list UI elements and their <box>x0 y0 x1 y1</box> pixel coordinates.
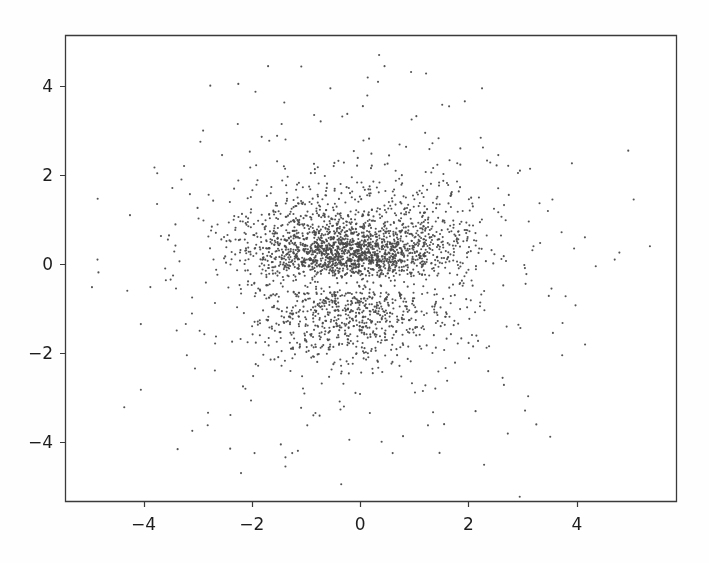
y-tick-label: 4 <box>42 78 53 95</box>
y-tick-label: −2 <box>28 345 53 362</box>
y-tick-label: 0 <box>42 256 53 273</box>
y-tick-label: 2 <box>42 167 53 184</box>
x-tick-label: 4 <box>571 516 582 533</box>
y-tick-label: −4 <box>28 433 53 450</box>
x-tick-label: 2 <box>463 516 474 533</box>
x-tick-label: −4 <box>131 516 156 533</box>
scatter-plot-canvas <box>0 0 709 563</box>
figure-container: −4 −2 0 2 4 −4 −2 0 2 4 <box>0 0 709 563</box>
x-tick-label: 0 <box>355 516 366 533</box>
x-tick-label: −2 <box>239 516 264 533</box>
